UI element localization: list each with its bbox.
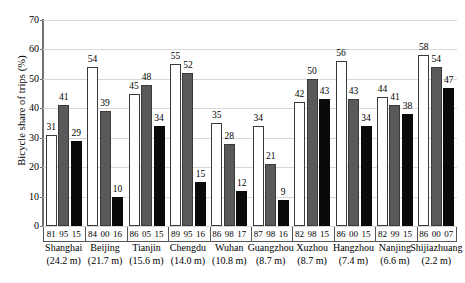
y-tick-mark-40 [40,108,44,109]
bar-value-label: 34 [361,114,371,124]
bar-value-label: 47 [444,76,454,86]
bar-guangzhou-16: 9 [278,200,289,226]
bar-tianjin-86: 45 [129,94,140,226]
group-separator [251,227,252,241]
bar-value-label: 56 [336,49,346,59]
y-tick-mark-10 [40,197,44,198]
bar-value-label: 35 [212,111,222,121]
year-label-shijiazhuang-07: 07 [441,227,456,241]
year-label-guangzhou-16: 16 [276,227,291,241]
year-label-shanghai-15: 15 [69,227,84,241]
city-name: Shanghai [45,242,82,253]
year-label-beijing-16: 16 [110,227,125,241]
bar-value-label: 54 [432,55,442,65]
bar-hangzhou-15: 34 [361,126,372,226]
bar-hangzhou-00: 43 [348,99,359,226]
bar-value-label: 52 [183,61,193,71]
group-separator [85,227,86,241]
bar-nanjing-99: 41 [389,105,400,226]
group-separator [210,227,211,241]
city-population: (2.2 m) [410,255,463,268]
gridline-50 [43,79,457,80]
city-name: Beijing [90,242,119,253]
bar-shanghai-95: 41 [58,105,69,226]
city-name: Tianjin [132,242,161,253]
bar-shijiazhuang-07: 47 [443,88,454,226]
group-separator [375,227,376,241]
city-name: Chengdu [170,242,206,253]
bar-value-label: 43 [320,87,330,97]
bar-nanjing-82: 44 [377,97,388,226]
bar-chengdu-16: 15 [195,182,206,226]
y-tick-label-0: 0 [34,221,39,231]
bar-shanghai-15: 29 [71,141,82,226]
bar-wuhan-98: 28 [224,144,235,226]
gridline-60 [43,49,457,50]
bar-beijing-16: 10 [112,197,123,226]
bar-guangzhou-98: 21 [265,164,276,226]
bar-xuzhou-98: 50 [307,79,318,226]
bar-value-label: 50 [307,67,317,77]
bar-value-label: 28 [225,132,235,142]
bar-shijiazhuang-00: 54 [431,67,442,226]
bar-xuzhou-15: 43 [319,99,330,226]
bar-chengdu-95: 52 [182,73,193,226]
y-tick-label-50: 50 [29,74,39,84]
bar-value-label: 21 [266,152,276,162]
y-tick-mark-50 [40,79,44,80]
gridline-70 [43,20,457,21]
y-tick-mark-30 [40,138,44,139]
bar-value-label: 48 [142,73,152,83]
bar-guangzhou-87: 34 [253,126,264,226]
bicycle-share-bar-chart: Bicycle share of trips (%) 0102030405060… [0,0,465,283]
year-row-left-edge [43,227,44,241]
bar-value-label: 55 [171,52,181,62]
bar-hangzhou-86: 56 [336,61,347,226]
year-label-row: 8195158400168605158995168698178798168298… [43,227,457,242]
y-tick-label-40: 40 [29,103,39,113]
bar-xuzhou-82: 42 [294,102,305,226]
year-row-right-edge [456,227,457,241]
y-tick-mark-20 [40,167,44,168]
bar-tianjin-05: 48 [141,85,152,226]
bar-wuhan-17: 12 [236,191,247,226]
bar-value-label: 58 [419,43,429,53]
bar-tianjin-15: 34 [154,126,165,226]
y-tick-label-10: 10 [29,192,39,202]
year-label-nanjing-15: 15 [400,227,415,241]
city-name: Nanjing [379,242,411,253]
bar-beijing-00: 39 [100,111,111,226]
bar-value-label: 29 [71,129,81,139]
bar-value-label: 44 [378,85,388,95]
y-tick-label-60: 60 [29,44,39,54]
city-label-shijiazhuang: Shijiazhuang(2.2 m) [410,242,463,267]
bar-value-label: 41 [390,93,400,103]
year-label-tianjin-15: 15 [152,227,167,241]
y-tick-label-20: 20 [29,162,39,172]
bar-value-label: 10 [113,185,123,195]
group-separator [127,227,128,241]
city-label-row: Shanghai(24.2 m)Beijing(21.7 m)Tianjin(1… [43,242,457,280]
y-tick-mark-60 [40,49,44,50]
bar-value-label: 34 [253,114,263,124]
group-separator [292,227,293,241]
bar-value-label: 31 [46,123,56,133]
bar-shanghai-81: 31 [46,135,57,226]
bar-value-label: 43 [349,87,359,97]
bar-nanjing-15: 38 [402,114,413,226]
y-tick-label-70: 70 [29,15,39,25]
bar-value-label: 45 [129,82,139,92]
group-separator [168,227,169,241]
bar-value-label: 41 [59,93,69,103]
plot-area: 0102030405060703141295439104548345552153… [43,20,457,226]
bar-value-label: 9 [281,188,286,198]
y-axis-title: Bicycle share of trips (%) [16,11,27,211]
year-label-xuzhou-15: 15 [317,227,332,241]
city-name: Xuzhou [296,242,328,253]
bar-beijing-84: 54 [87,67,98,226]
year-label-wuhan-17: 17 [234,227,249,241]
year-label-hangzhou-15: 15 [359,227,374,241]
year-label-chengdu-16: 16 [193,227,208,241]
bar-value-label: 15 [196,170,206,180]
y-tick-label-30: 30 [29,133,39,143]
